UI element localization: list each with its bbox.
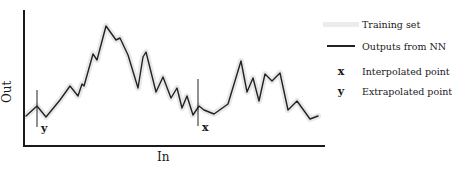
x-glyph-icon: x [338,65,345,78]
legend-label: Outputs from NN [362,41,446,52]
legend-item-nn-outputs: Outputs from NN [320,39,446,53]
legend-label: Training set [362,19,420,30]
nn-output-curve [26,26,318,119]
line-swatch-icon [327,45,355,46]
extrapolated-point-marker: y [41,122,47,135]
legend-label: Extrapolated point [362,86,452,97]
training-set-band [26,26,318,119]
nn-interpolation-figure: Out In y x Training set Outputs from NN … [0,0,452,171]
legend-label: Interpolated point [362,66,450,77]
legend-item-extrapolated: y Extrapolated point [320,84,452,98]
legend-item-training-set: Training set [320,17,420,31]
y-axis-label: Out [0,81,14,103]
y-glyph-icon: y [338,85,344,98]
x-axis-label: In [157,150,169,164]
legend-item-interpolated: x Interpolated point [320,64,450,78]
training-set-swatch-icon [323,22,359,27]
interpolated-point-marker: x [202,121,209,134]
